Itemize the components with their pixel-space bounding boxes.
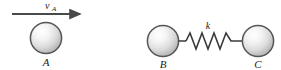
ball-c-sphere [242,25,273,56]
velocity-label-subscript: A [51,5,57,13]
ball-b-label: B [160,58,167,70]
spring-constant-label: k [206,20,211,31]
figure-canvas: v A A B k C [0,0,281,70]
velocity-label: v [45,0,50,11]
velocity-arrow-group: v A [12,0,80,14]
spring-group: k [179,20,243,49]
ball-c-label: C [254,58,262,70]
ball-a-label: A [42,56,50,68]
ball-b-sphere [147,25,178,56]
ball-a-group: A [30,22,61,68]
ball-b-group: B [147,25,178,70]
spring-coil-icon [186,33,236,49]
physics-figure: v A A B k C [0,0,281,70]
ball-c-group: C [242,25,273,70]
ball-a-sphere [30,22,61,53]
